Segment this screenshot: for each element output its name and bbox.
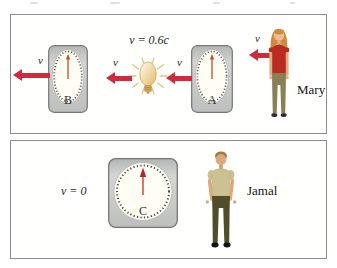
bulb-base-tip (146, 92, 149, 94)
arrow-head-icon (13, 69, 22, 81)
bulb-base (145, 86, 152, 92)
velocity-label: v (113, 57, 118, 68)
mary-shirt (272, 45, 286, 74)
jamal-shirt (212, 169, 231, 197)
cropped-text-artifact (290, 2, 295, 4)
velocity-arrow-left-of-b: v (13, 69, 50, 81)
arrow-shaft (175, 76, 192, 81)
arrow-head-icon (249, 49, 258, 61)
velocity-arrow-left-of-a: v (166, 72, 192, 84)
mary-pants (272, 73, 286, 113)
rest-speed-label: v = 0 (61, 185, 86, 197)
mary-hand (286, 76, 289, 79)
velocity-label: v (38, 55, 43, 66)
mary-bangs (274, 29, 285, 35)
jamal-shoe (211, 243, 218, 248)
mary-arm (286, 52, 289, 76)
velocity-arrow-left-of-bulb: v (106, 72, 132, 84)
mary-shoe (271, 113, 277, 117)
velocity-label: v (255, 33, 260, 44)
person-mary-label: Mary (297, 83, 325, 96)
bulb-glass (140, 62, 156, 86)
clock-a: A (191, 45, 233, 113)
bulb-speed-label: v = 0.6c (118, 34, 180, 46)
mary-arm (269, 52, 272, 76)
relativity-figure: v = 0.6c B A (0, 0, 337, 268)
arrow-head-icon (106, 72, 115, 84)
jamal-shoe (223, 243, 230, 248)
mary-shoe (281, 113, 287, 117)
arrow-shaft (115, 76, 132, 81)
clock-c: C (108, 158, 178, 228)
cropped-text-artifact (110, 2, 120, 4)
cropped-text-artifact (30, 2, 38, 4)
jamal-hand (233, 200, 237, 204)
clock-a-letter: A (208, 93, 217, 107)
cropped-text-artifact (213, 2, 220, 4)
clock-c-letter: C (139, 204, 147, 218)
clock-b: B (48, 45, 88, 113)
person-mary-figure (262, 27, 296, 127)
person-jamal-figure (199, 151, 243, 253)
clock-b-letter: B (64, 93, 72, 107)
jamal-pants (212, 196, 230, 243)
jamal-hand (206, 200, 210, 204)
jamal-face (216, 154, 227, 165)
arrow-head-icon (166, 72, 175, 84)
arrow-shaft (22, 73, 50, 78)
person-jamal-label: Jamal (247, 184, 277, 197)
mary-hand (269, 76, 272, 79)
velocity-label: v (177, 57, 182, 68)
light-bulb (126, 53, 170, 109)
